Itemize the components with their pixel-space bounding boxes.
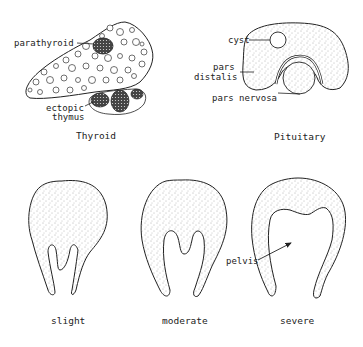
kidney-slight: [29, 180, 108, 294]
kidney-panels: pelvis slight moderate severe: [29, 178, 346, 326]
label-cyst: cyst: [228, 35, 250, 45]
label-parathyroid: parathyroid: [14, 38, 74, 48]
label-pars-nervosa: pars nervosa: [212, 93, 277, 103]
cyst: [270, 32, 286, 48]
thymus-lobe-3: [131, 89, 143, 99]
caption-slight: slight: [51, 315, 85, 326]
thymus-lobe-1: [91, 93, 109, 107]
thyroid-panel: parathyroid ectopic thymus Thyroid: [14, 22, 153, 141]
caption-severe: severe: [280, 315, 315, 326]
label-pars: pars: [213, 62, 235, 72]
label-thymus: thymus: [52, 112, 85, 122]
thymus-lobe-2: [111, 90, 129, 112]
parathyroid-nodule: [93, 38, 113, 54]
label-distalis: distalis: [194, 72, 237, 82]
kidney-severe: [252, 178, 346, 298]
caption-thyroid: Thyroid: [76, 130, 116, 141]
caption-moderate: moderate: [162, 315, 208, 326]
histology-diagram: parathyroid ectopic thymus Thyroid cyst …: [0, 0, 363, 347]
caption-pituitary: Pituitary: [274, 131, 326, 142]
pars-nervosa: [283, 62, 315, 94]
label-pelvis: pelvis: [226, 256, 259, 266]
kidney-moderate: [141, 180, 227, 297]
pituitary-panel: cyst pars distalis pars nervosa Pituitar…: [194, 23, 348, 142]
